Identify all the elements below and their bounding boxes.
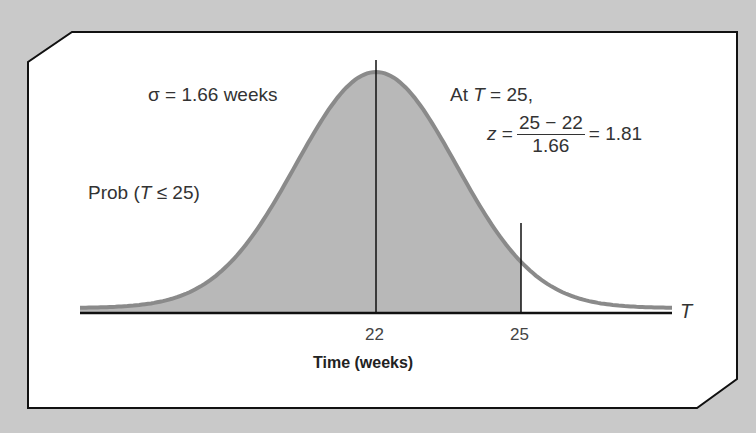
- at-t-label: At T = 25,: [450, 84, 533, 106]
- z-variable: z: [487, 123, 497, 144]
- z-denominator: 1.66: [517, 135, 585, 157]
- sigma-label: σ = 1.66 weeks: [148, 84, 278, 106]
- z-result: = 1.81: [589, 123, 642, 144]
- at-prefix: At: [450, 84, 473, 105]
- tick-22: 22: [365, 325, 384, 345]
- prob-prefix: Prob (: [88, 182, 140, 203]
- z-numerator: 25 − 22: [517, 112, 585, 135]
- prob-variable: T: [140, 182, 152, 203]
- z-fraction: 25 − 221.66: [517, 112, 585, 157]
- prob-suffix: ≤ 25): [151, 182, 199, 203]
- z-equals: =: [497, 123, 513, 144]
- tick-25: 25: [510, 325, 529, 345]
- at-variable: T: [473, 84, 485, 105]
- probability-label: Prob (T ≤ 25): [88, 182, 200, 204]
- z-formula: z =25 − 221.66= 1.81: [487, 112, 642, 157]
- axis-variable-label: T: [680, 300, 692, 323]
- x-axis-label: Time (weeks): [313, 354, 413, 372]
- at-suffix: = 25,: [485, 84, 533, 105]
